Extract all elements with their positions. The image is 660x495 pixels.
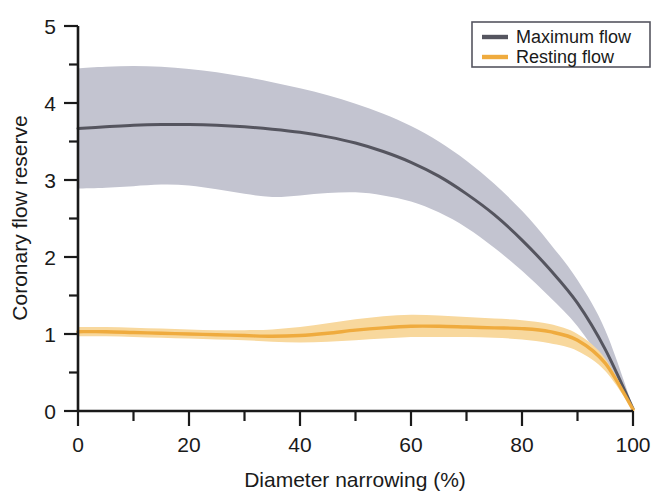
legend-label-maximum-flow: Maximum flow: [516, 27, 632, 47]
y-tick-label-3: 3: [44, 169, 56, 192]
y-axis-title: Coronary flow reserve: [8, 115, 31, 320]
x-axis-title: Diameter narrowing (%): [244, 468, 466, 491]
x-tick-label-60: 60: [399, 433, 422, 456]
y-tick-label-1: 1: [44, 323, 56, 346]
x-tick-label-40: 40: [288, 433, 311, 456]
y-tick-label-0: 0: [44, 400, 56, 423]
x-tick-label-100: 100: [615, 433, 650, 456]
y-tick-label-4: 4: [44, 92, 56, 115]
x-tick-label-0: 0: [72, 433, 84, 456]
coronary-flow-reserve-chart: 012345020406080100 Diameter narrowing (%…: [0, 0, 660, 495]
chart-figure: 012345020406080100 Diameter narrowing (%…: [0, 0, 660, 495]
x-tick-label-20: 20: [177, 433, 200, 456]
y-tick-label-2: 2: [44, 246, 56, 269]
x-tick-label-80: 80: [510, 433, 533, 456]
legend-label-resting-flow: Resting flow: [516, 47, 615, 67]
y-tick-label-5: 5: [44, 15, 56, 38]
legend: Maximum flow Resting flow: [472, 22, 650, 67]
